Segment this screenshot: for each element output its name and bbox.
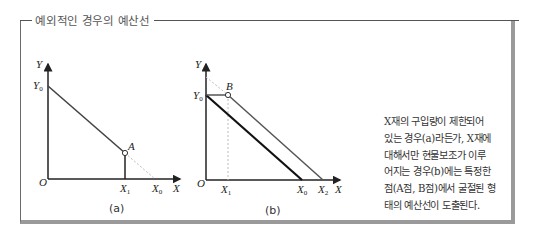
svg-text:X0: X0 xyxy=(296,183,308,197)
svg-text:O: O xyxy=(39,176,47,188)
graph-b-caption: (b) xyxy=(265,204,281,217)
graph-a-budget-line xyxy=(48,86,125,153)
graph-b-original-budget-line xyxy=(206,95,302,180)
graph-b-point-b xyxy=(225,92,230,97)
svg-text:A: A xyxy=(127,140,135,152)
graph-b-new-budget-line xyxy=(228,95,323,180)
graph-a-dotted-extension xyxy=(125,153,155,179)
description-line: 어지는 경우(b)에는 특정한 xyxy=(384,164,512,181)
svg-text:B: B xyxy=(226,80,233,92)
description-line: 태의 예산선이 도출된다. xyxy=(384,198,512,215)
graph-b: Y Y0 B O X1 X0 X2 X (b) xyxy=(193,58,343,217)
description-line: X재의 구입량이 제한되어 xyxy=(384,114,512,131)
description-text: X재의 구입량이 제한되어 있는 경우(a)라든가, X재에 대해서만 현물보조… xyxy=(384,114,512,215)
description-line: 있는 경우(a)라든가, X재에 xyxy=(384,131,512,148)
svg-text:Y0: Y0 xyxy=(193,89,203,103)
svg-text:Y: Y xyxy=(36,58,44,70)
svg-text:X2: X2 xyxy=(317,183,329,197)
svg-text:X1: X1 xyxy=(220,183,232,197)
graph-b-dotted-extension xyxy=(206,77,228,95)
graph-a-point-a xyxy=(122,150,127,155)
description-line: 대해서만 현물보조가 이루 xyxy=(384,148,512,165)
svg-text:X1: X1 xyxy=(119,182,131,196)
graph-a-caption: (a) xyxy=(109,202,124,215)
description-line: 점(A점, B점)에서 굴절된 형 xyxy=(384,181,512,198)
svg-text:X: X xyxy=(172,182,181,194)
graph-a: Y Y0 O A X1 X0 X (a) xyxy=(33,58,181,215)
svg-text:X: X xyxy=(334,183,343,195)
svg-text:Y: Y xyxy=(195,58,203,70)
svg-text:X0: X0 xyxy=(151,182,163,196)
svg-text:O: O xyxy=(197,177,205,189)
svg-text:Y0: Y0 xyxy=(33,79,43,93)
